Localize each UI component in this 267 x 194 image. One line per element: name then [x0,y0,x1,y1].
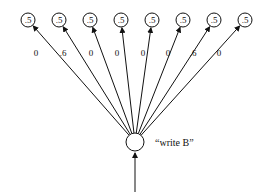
source-node-label: “write B” [155,137,194,148]
node-value: .5 [149,15,156,25]
network-diagram: 0.60000.60 .5.5.5.5.5.5.5.5 “write B” [0,0,267,194]
edge-weight-label: 0 [217,48,222,58]
edge-weight-label: 0 [34,48,39,58]
edge-arrow [93,28,132,134]
edge-weight-label: 0 [166,48,171,58]
edge-arrow [140,27,210,135]
output-nodes: .5.5.5.5.5.5.5.5 [21,13,252,27]
source-node [126,133,144,151]
edge-arrow [136,28,151,133]
node-value: .5 [242,15,249,25]
source-node-group: “write B” [126,133,194,192]
edge-arrow [63,27,130,135]
node-value: .5 [87,15,94,25]
edge-arrow [138,27,180,133]
edge-weight-label: 0 [141,48,146,58]
edge-weight-label: .6 [60,48,67,58]
node-value: .5 [180,15,187,25]
node-value: .5 [118,15,125,25]
edges: 0.60000.60 [33,26,239,135]
node-value: .5 [56,15,63,25]
edge-arrow [33,26,129,135]
edge-weight-label: 0 [89,48,94,58]
edge-arrow [122,28,134,133]
edge-weight-label: 0 [115,48,120,58]
node-value: .5 [25,15,32,25]
node-value: .5 [211,15,218,25]
edge-weight-label: .6 [190,48,197,58]
edge-arrow [141,26,240,135]
